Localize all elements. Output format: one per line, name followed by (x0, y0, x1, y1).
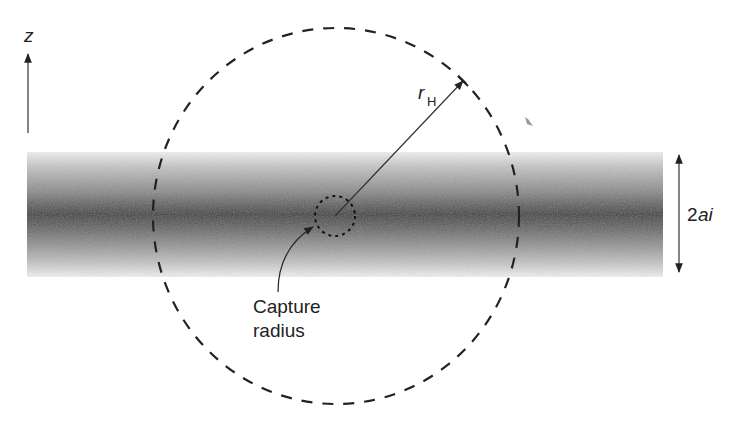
capture-label-line1: Capture (253, 296, 321, 317)
radius-subscript: H (427, 94, 436, 109)
width-label-num: 2 (687, 204, 698, 225)
ink-smudge (525, 117, 533, 126)
capture-label-line2: radius (253, 320, 305, 341)
shaded-band (27, 152, 663, 277)
width-label-var: ai (698, 204, 714, 225)
radius-label: r (418, 82, 425, 103)
z-axis-label: z (23, 25, 34, 46)
z-axis: z (23, 25, 34, 133)
width-arrow: 2 ai (679, 155, 714, 272)
diagram-canvas: z r H 2 ai Capture radius (0, 0, 736, 425)
